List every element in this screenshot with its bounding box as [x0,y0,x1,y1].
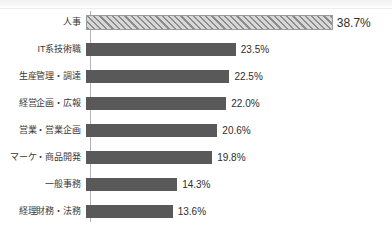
bar-track-4: 20.6% [86,117,392,144]
value-label-7: 13.6% [178,206,206,218]
bar-track-1: 23.5% [86,36,392,63]
value-label-6: 14.3% [182,179,210,191]
category-label-7: 経理財務・法務 [0,206,86,217]
value-label-3: 22.0% [231,98,259,110]
cropped-plot-edge-band [0,0,392,9]
bar-5[interactable] [86,151,212,164]
bar-1[interactable] [86,43,236,56]
table-row: 一般事務 14.3% [0,171,392,198]
category-label-3: 経営企画・広報 [0,98,86,109]
bar-2[interactable] [86,70,229,83]
bar-track-5: 19.8% [86,144,392,171]
table-row: 人事 38.7% [0,9,392,36]
table-row: 生産管理・調達 22.5% [0,63,392,90]
table-row: 経営企画・広報 22.0% [0,90,392,117]
category-label-1: IT系技術職 [0,44,86,55]
value-label-4: 20.6% [222,125,250,137]
table-row: 営業・営業企画 20.6% [0,117,392,144]
category-label-6: 一般事務 [0,179,86,190]
category-label-0: 人事 [0,17,86,28]
table-row: 経理財務・法務 13.6% [0,198,392,225]
table-row: マーケ・商品開発 19.8% [0,144,392,171]
value-label-0: 38.7% [337,17,371,29]
value-label-2: 22.5% [234,71,262,83]
category-label-4: 営業・営業企画 [0,125,86,136]
bar-3[interactable] [86,97,226,110]
table-row: IT系技術職 23.5% [0,36,392,63]
bar-track-7: 13.6% [86,198,392,225]
bar-4[interactable] [86,124,217,137]
category-label-5: マーケ・商品開発 [0,152,86,163]
bar-track-0: 38.7% [86,9,392,36]
bar-track-6: 14.3% [86,171,392,198]
bar-track-2: 22.5% [86,63,392,90]
bar-track-3: 22.0% [86,90,392,117]
bar-6[interactable] [86,178,177,191]
bar-7[interactable] [86,205,173,218]
bar-0[interactable] [86,15,333,30]
value-label-5: 19.8% [217,152,245,164]
horizontal-bar-chart: 人事 38.7% IT系技術職 23.5% 生産管理・調達 22.5% 経営企画… [0,9,392,235]
category-label-2: 生産管理・調達 [0,71,86,82]
value-label-1: 23.5% [241,44,269,56]
